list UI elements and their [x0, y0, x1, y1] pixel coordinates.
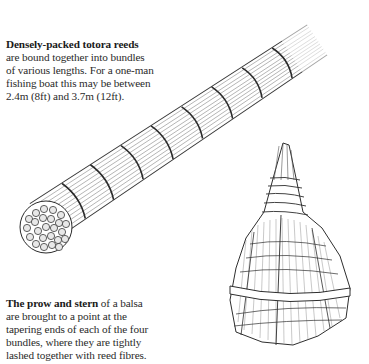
caption-line: tapering ends of each of the four — [6, 323, 181, 336]
caption-line: 2.4m (8ft) and 3.7m (12ft). — [6, 90, 181, 103]
reed-bundle-caption: Densely-packed totora reeds are bound to… — [6, 38, 181, 103]
caption-line: lashed together with reed fibres. — [6, 349, 181, 362]
caption-lead-rest: of a balsa — [98, 297, 143, 309]
caption-line: fishing boat this may be between — [6, 77, 181, 90]
caption-bold-lead: The prow and stern — [6, 297, 98, 309]
reed-ends — [20, 201, 72, 253]
caption-line: are bound together into bundles — [6, 51, 181, 64]
prow-stern-caption: The prow and stern of a balsa are brough… — [6, 297, 181, 362]
prow-illustration — [230, 143, 350, 345]
caption-line: are brought to a point at the — [6, 310, 181, 323]
caption-line: bundles, where they are tightly — [6, 336, 181, 349]
caption-line: of various lengths. For a one-man — [6, 64, 181, 77]
caption-bold-lead: Densely-packed totora reeds — [6, 38, 139, 50]
